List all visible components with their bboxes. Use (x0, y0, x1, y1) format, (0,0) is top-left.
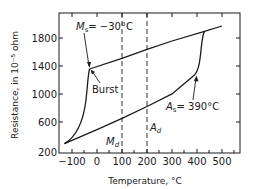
x-tick-label: 500 (212, 156, 231, 167)
x-tick-label: 0 (94, 156, 100, 167)
x-tick-labels: −100 0 100 200 300 400 500 (58, 156, 231, 167)
x-tick-label: 400 (187, 156, 206, 167)
as-arrowhead (194, 76, 199, 82)
ms-label: Ms= −30°C (76, 21, 133, 34)
martensite-line (90, 26, 223, 69)
y-tick-label: 1800 (32, 33, 57, 44)
x-tick-label: 200 (137, 156, 156, 167)
as-arrow (193, 78, 196, 100)
x-tick-label: 300 (162, 156, 181, 167)
x-tick-label: −100 (58, 156, 85, 167)
y-tick-label: 1400 (32, 61, 57, 72)
ad-label: Ad (149, 122, 162, 135)
y-tick-labels: 1800 1400 1000 600 200 (32, 33, 57, 158)
md-label: Md (106, 136, 120, 149)
y-tick-label: 1000 (32, 89, 57, 100)
x-axis-title: Temperature, °C (107, 176, 182, 186)
cooling-curve (65, 69, 90, 144)
y-axis-title: Resistance, in 10⁻⁵ ohm (10, 31, 20, 139)
x-tick-label: 100 (112, 156, 131, 167)
ms-arrow (84, 33, 89, 66)
burst-label: Burst (92, 84, 119, 95)
y-tick-label: 200 (38, 147, 57, 158)
ms-arrowhead (87, 62, 91, 68)
heating-curve (65, 31, 205, 143)
as-label: As= 390°C (165, 101, 219, 114)
resistance-temperature-chart: −100 0 100 200 300 400 500 1800 1400 100… (0, 0, 254, 189)
y-tick-label: 600 (38, 117, 57, 128)
